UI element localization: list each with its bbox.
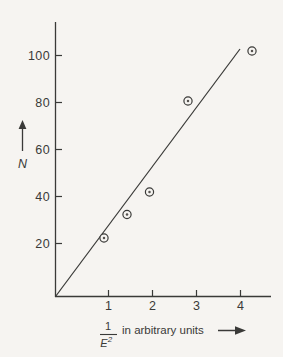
x-tick-label-2: 2 (149, 299, 156, 313)
x-axis-label-suffix: in arbitrary units (122, 324, 204, 336)
x-axis-label-exponent: 2 (107, 335, 113, 344)
y-tick-label-60: 60 (35, 143, 50, 157)
y-tick-label-100: 100 (28, 49, 50, 63)
x-axis-label-numerator: 1 (105, 320, 111, 332)
x-axis-tick-labels: 1 2 3 4 (105, 299, 244, 313)
y-axis-tick-labels: 20 40 60 80 100 (28, 49, 50, 251)
y-tick-label-20: 20 (35, 237, 50, 251)
data-point-markers (100, 47, 256, 242)
arrow-right-icon (235, 326, 246, 334)
y-tick-label-40: 40 (35, 190, 50, 204)
x-axis-label-group: 1 E 2 in arbitrary units (100, 320, 246, 349)
data-point-3 (145, 188, 153, 196)
scatter-chart-figure: 20 40 60 80 100 1 2 3 4 (0, 0, 283, 357)
x-tick-label-1: 1 (105, 299, 112, 313)
y-axis-label-group: N (18, 120, 28, 171)
x-tick-label-3: 3 (193, 299, 200, 313)
data-point-5 (248, 47, 256, 55)
data-point-1 (100, 234, 108, 242)
data-point-4 (184, 97, 192, 105)
x-tick-label-4: 4 (237, 299, 244, 313)
arrow-up-icon (19, 120, 27, 129)
y-axis-ticks (56, 56, 63, 244)
x-axis-ticks (109, 290, 241, 297)
data-point-2 (123, 210, 131, 218)
fitted-trend-line (56, 49, 241, 297)
chart-axes (55, 22, 271, 297)
y-tick-label-80: 80 (35, 96, 50, 110)
y-axis-label: N (18, 157, 28, 171)
